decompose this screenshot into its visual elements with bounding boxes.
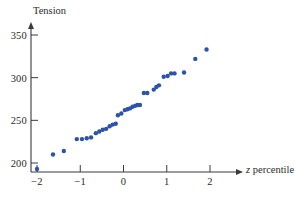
- data-point: [204, 47, 208, 51]
- scatter-plot-figure: Tension z percentile 200250300350−2−1012: [0, 0, 295, 197]
- y-tick-label: 250: [11, 115, 27, 126]
- data-point: [51, 152, 55, 156]
- data-point: [80, 137, 84, 141]
- data-point: [157, 83, 161, 87]
- y-tick-label: 350: [11, 30, 27, 41]
- x-axis-arrow-icon: [236, 169, 243, 175]
- y-axis-arrow-icon: [28, 22, 34, 29]
- data-point: [35, 167, 39, 171]
- ticks-group: [31, 35, 210, 172]
- data-point: [89, 135, 93, 139]
- axes-group: [28, 22, 243, 175]
- data-point: [138, 103, 142, 107]
- y-tick-label: 300: [11, 72, 27, 83]
- x-axis-title-rest: percentile: [250, 164, 294, 175]
- data-point: [114, 122, 118, 126]
- x-tick-label: −2: [31, 176, 43, 187]
- data-point: [193, 57, 197, 61]
- data-point: [119, 111, 123, 115]
- x-tick-label: 0: [121, 176, 126, 187]
- data-point: [162, 75, 166, 79]
- x-tick-label: −1: [74, 176, 86, 187]
- data-point: [145, 91, 149, 95]
- data-point: [182, 70, 186, 74]
- x-tick-label: 2: [207, 176, 212, 187]
- data-point: [85, 136, 89, 140]
- x-tick-label: 1: [164, 176, 169, 187]
- data-point: [172, 71, 176, 75]
- x-axis-title: z percentile: [246, 164, 294, 175]
- data-points-group: [35, 47, 209, 171]
- data-point: [75, 137, 79, 141]
- data-point: [62, 149, 66, 153]
- y-tick-label: 200: [11, 158, 27, 169]
- y-axis-title: Tension: [33, 5, 66, 16]
